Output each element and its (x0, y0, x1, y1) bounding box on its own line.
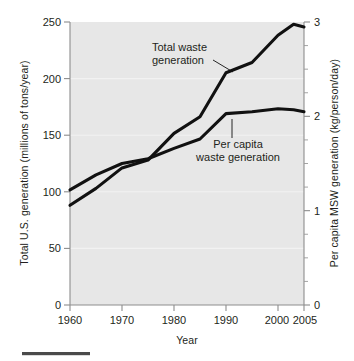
annotation-total-waste-line2: generation (152, 54, 204, 66)
left-tick-label-250: 250 (43, 16, 61, 28)
x-tick-label-1990: 1990 (214, 314, 238, 326)
figure-container: 0 50 100 150 200 250 0 1 2 3 1960 1970 1… (0, 0, 354, 361)
right-axis-minor-ticks (304, 46, 308, 282)
annotation-per-capita-line1: Per capita (213, 138, 263, 150)
x-axis-ticks (70, 305, 304, 311)
left-axis-ticks (64, 22, 70, 305)
right-axis-title: Per capita MSW generation (kg/person/day… (328, 59, 340, 267)
x-tick-label-2000: 2000 (265, 314, 289, 326)
dual-axis-line-chart: 0 50 100 150 200 250 0 1 2 3 1960 1970 1… (0, 0, 354, 361)
left-tick-label-0: 0 (55, 299, 61, 311)
x-axis-title: Year (176, 334, 198, 346)
right-tick-label-1: 1 (314, 205, 320, 217)
left-tick-label-100: 100 (43, 186, 61, 198)
left-tick-label-50: 50 (49, 242, 61, 254)
x-tick-label-1980: 1980 (162, 314, 186, 326)
annotation-total-waste-line1: Total waste (152, 41, 207, 53)
right-tick-label-3: 3 (314, 16, 320, 28)
x-tick-label-1960: 1960 (58, 314, 82, 326)
caption-rule (22, 352, 90, 355)
left-tick-label-150: 150 (43, 129, 61, 141)
right-tick-label-0: 0 (314, 299, 320, 311)
left-axis-title: Total U.S. generation (millions of tons/… (18, 60, 30, 265)
left-tick-label-200: 200 (43, 73, 61, 85)
x-tick-label-1970: 1970 (110, 314, 134, 326)
x-tick-label-2005: 2005 (293, 314, 317, 326)
right-tick-label-2: 2 (314, 110, 320, 122)
annotation-per-capita-line2: waste generation (195, 151, 280, 163)
